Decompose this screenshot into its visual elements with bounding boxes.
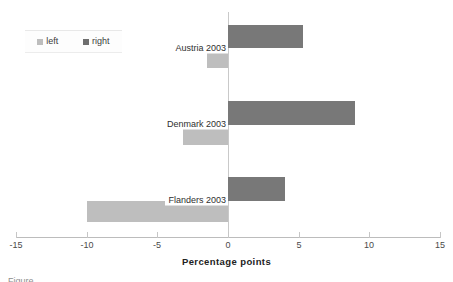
bar-flanders-right[interactable] bbox=[228, 177, 285, 201]
x-tick-5 bbox=[299, 232, 300, 238]
x-tick-minus15 bbox=[16, 232, 17, 238]
x-tick-15 bbox=[440, 232, 441, 238]
x-tick-10 bbox=[369, 232, 370, 238]
plot-area bbox=[16, 12, 440, 237]
category-label-austria: Austria 2003 bbox=[172, 43, 228, 54]
bar-austria-right[interactable] bbox=[228, 25, 303, 48]
bar-denmark-right[interactable] bbox=[228, 101, 355, 125]
x-tick-label-zero: 0 bbox=[225, 240, 230, 250]
x-axis-title: Percentage points bbox=[0, 256, 453, 267]
x-tick-label-minus10: -10 bbox=[80, 240, 93, 250]
x-tick-label-minus15: -15 bbox=[9, 240, 22, 250]
x-tick-label-5: 5 bbox=[296, 240, 301, 250]
chart-figure: left right Austria 2003 Denmark 2003 Fla… bbox=[0, 0, 453, 282]
x-tick-minus5 bbox=[157, 232, 158, 238]
x-tick-minus10 bbox=[87, 232, 88, 238]
x-tick-zero bbox=[228, 232, 229, 238]
x-tick-label-10: 10 bbox=[364, 240, 374, 250]
category-label-denmark: Denmark 2003 bbox=[164, 119, 228, 130]
caption-fragment: Figure bbox=[8, 276, 34, 282]
x-tick-label-15: 15 bbox=[435, 240, 445, 250]
x-tick-label-minus5: -5 bbox=[153, 240, 161, 250]
category-label-flanders: Flanders 2003 bbox=[165, 195, 228, 206]
